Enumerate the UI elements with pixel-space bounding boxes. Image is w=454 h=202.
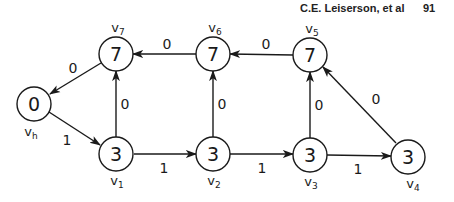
edge-weight-v1-v2: 1: [160, 160, 169, 176]
node-v7: 7 v7: [99, 20, 133, 71]
node-label: v7: [111, 20, 124, 37]
node-value: 3: [110, 143, 122, 165]
node-vh: 0 vh: [17, 87, 51, 141]
edge-weight-v3-v4: 1: [354, 161, 363, 177]
edge-v5-v6: [230, 54, 293, 55]
edge-weight-vh-v1: 1: [63, 132, 72, 148]
retiming-graph-diagram: 1 1 1 1 0 0 0 0 0 0 0 0 vh: [0, 0, 454, 202]
node-value: 0: [28, 93, 40, 115]
node-label: v3: [304, 174, 317, 191]
edge-weight-v7-vh: 0: [69, 60, 78, 76]
node-v3: 3 v3: [293, 138, 327, 191]
edge-weight-v4-v5: 0: [372, 91, 381, 107]
edge-weight-v5-v6: 0: [262, 36, 271, 52]
edge-weight-v2-v6: 0: [218, 96, 227, 112]
edge-weight-v2-v3: 1: [258, 160, 267, 176]
edge-vh-v1: [49, 112, 100, 145]
edge-v4-v5: [323, 67, 396, 143]
node-v5: 7 v5: [293, 21, 327, 72]
edge-weight-v6-v7: 0: [163, 36, 172, 52]
node-label: v4: [406, 176, 420, 193]
edge-weight-v1-v7: 0: [121, 96, 130, 112]
edge-v3-v4: [327, 155, 391, 156]
node-label: v5: [305, 21, 318, 38]
node-value: 3: [207, 143, 219, 165]
node-label: vh: [24, 124, 37, 141]
node-v4: 3 v4: [391, 140, 425, 193]
node-v6: 7 v6: [196, 20, 230, 71]
node-value: 3: [304, 144, 316, 166]
node-value: 7: [207, 43, 219, 65]
edge-weight-v3-v5: 0: [315, 97, 324, 113]
node-label: v6: [208, 20, 222, 37]
node-v1: 3 v1: [99, 137, 133, 190]
node-value: 7: [110, 43, 122, 65]
node-label: v1: [110, 173, 123, 190]
node-label: v2: [207, 173, 220, 190]
node-value: 3: [402, 146, 414, 168]
node-value: 7: [304, 44, 316, 66]
node-v2: 3 v2: [196, 137, 230, 190]
